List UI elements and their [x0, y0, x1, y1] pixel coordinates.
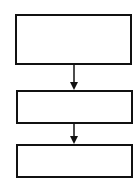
arrow-down-icon: [70, 65, 78, 90]
arrow-down-icon: [70, 124, 78, 144]
connector-arrows: [0, 0, 140, 184]
